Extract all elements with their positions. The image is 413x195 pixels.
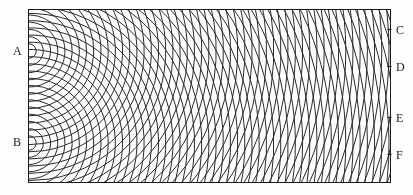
label-source-b: B	[13, 136, 21, 148]
label-source-a: A	[13, 45, 22, 57]
label-screen-e: E	[396, 112, 403, 124]
label-screen-d: D	[396, 61, 405, 73]
label-screen-c: C	[396, 24, 404, 36]
interference-figure: A B C D E F	[0, 0, 413, 195]
wave-interference-canvas	[0, 0, 413, 195]
label-screen-f: F	[396, 149, 403, 161]
